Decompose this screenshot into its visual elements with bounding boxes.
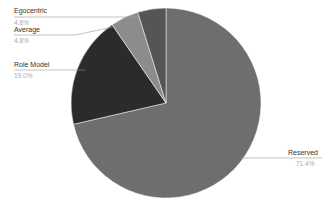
pie-chart — [0, 0, 332, 206]
label-average: Average — [14, 26, 40, 34]
label-egocentric: Egocentric — [14, 7, 47, 15]
pct-average: 4.8% — [14, 37, 29, 45]
pct-reserved: 71.4% — [296, 160, 314, 168]
label-reserved: Reserved — [288, 149, 318, 157]
pct-role-model: 19.0% — [14, 72, 32, 80]
label-role-model: Role Model — [14, 61, 49, 69]
